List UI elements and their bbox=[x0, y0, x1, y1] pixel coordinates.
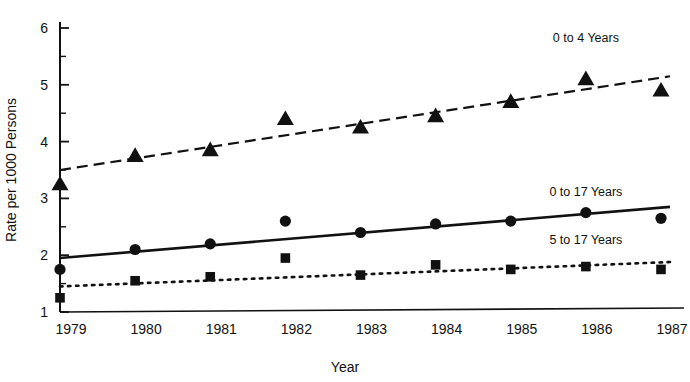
data-point-circle bbox=[430, 218, 441, 229]
data-point-circle bbox=[130, 244, 141, 255]
data-point-square bbox=[581, 262, 591, 272]
data-point-square bbox=[281, 253, 291, 263]
series-label-0-to-4-years: 0 to 4 Years bbox=[553, 31, 619, 45]
data-point-square bbox=[205, 272, 215, 282]
y-axis-tick-label: 4 bbox=[40, 134, 48, 150]
x-axis-tick-label: 1980 bbox=[131, 321, 162, 337]
x-axis-line bbox=[60, 308, 684, 312]
data-point-triangle bbox=[427, 108, 444, 123]
x-axis-tick-label: 1983 bbox=[356, 321, 387, 337]
y-axis-tick-label: 6 bbox=[40, 20, 48, 36]
x-axis-tick-label: 1986 bbox=[581, 321, 612, 337]
y-axis-tick-label: 2 bbox=[40, 247, 48, 263]
x-axis-tick-label: 1984 bbox=[431, 321, 462, 337]
data-point-square bbox=[130, 276, 140, 286]
data-point-square bbox=[431, 260, 441, 270]
data-point-circle bbox=[505, 216, 516, 227]
data-point-circle bbox=[580, 207, 591, 218]
y-axis-tick-label: 5 bbox=[40, 77, 48, 93]
trend-line-0-to-4-years bbox=[60, 76, 670, 170]
y-axis-tick-labels: 123456 bbox=[40, 20, 48, 320]
data-point-circle bbox=[355, 227, 366, 238]
x-axis-tick-label: 1982 bbox=[281, 321, 312, 337]
trend-lines-group bbox=[60, 76, 670, 286]
x-axis-tick-label: 1985 bbox=[506, 321, 537, 337]
x-axis-tick-label: 1987 bbox=[656, 321, 687, 337]
series-label-0-to-17-years: 0 to 17 Years bbox=[549, 185, 622, 199]
x-axis-tick-label: 1981 bbox=[206, 321, 237, 337]
data-point-circle bbox=[280, 216, 291, 227]
data-point-triangle bbox=[653, 82, 670, 97]
data-point-triangle bbox=[352, 119, 369, 134]
data-point-circle bbox=[205, 238, 216, 249]
series-label-5-to-17-years: 5 to 17 Years bbox=[549, 233, 622, 247]
y-axis-tick-label: 3 bbox=[40, 190, 48, 206]
x-axis-tick-labels: 197919801981198219831984198519861987 bbox=[55, 321, 687, 337]
data-point-square bbox=[55, 293, 65, 303]
y-axis-title: Rate per 1000 Persons bbox=[3, 98, 19, 242]
y-axis-tick-label: 1 bbox=[40, 304, 48, 320]
x-axis-title: Year bbox=[331, 359, 360, 375]
chart-canvas: 123456 197919801981198219831984198519861… bbox=[0, 0, 690, 382]
data-point-square bbox=[506, 265, 516, 275]
data-point-triangle bbox=[52, 176, 69, 191]
data-point-square bbox=[656, 265, 666, 275]
data-point-triangle bbox=[127, 147, 144, 162]
data-point-circle bbox=[655, 213, 666, 224]
x-axis-tick-label: 1979 bbox=[55, 321, 86, 337]
data-point-circle bbox=[54, 264, 65, 275]
data-point-triangle bbox=[277, 110, 294, 125]
chart-figure: 123456 197919801981198219831984198519861… bbox=[0, 0, 690, 382]
data-point-triangle bbox=[577, 71, 594, 86]
data-point-square bbox=[356, 270, 366, 280]
